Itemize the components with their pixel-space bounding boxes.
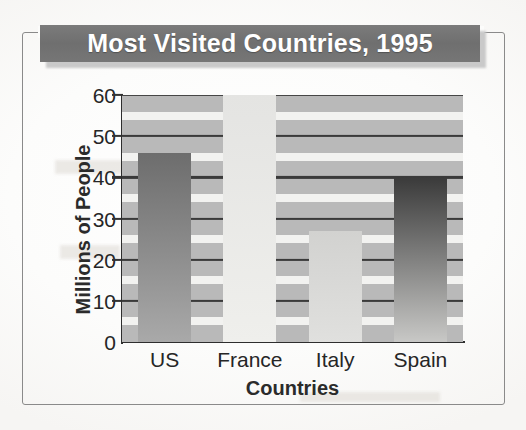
grid-band [122,112,463,120]
y-tick-label: 10 [70,290,116,311]
bar-france [223,95,276,342]
page-title: Most Visited Countries, 1995 [87,29,433,58]
y-axis-tick-labels: 0102030405060 [62,0,116,430]
plot-area [122,95,463,342]
bar-us [138,153,191,342]
bar-italy [309,231,362,342]
gridline [122,95,463,96]
y-tick-label: 20 [70,249,116,270]
x-tick-label: Spain [394,348,448,372]
y-tick-label: 60 [70,85,116,106]
y-tick-label: 30 [70,208,116,229]
y-tick-label: 50 [70,126,116,147]
y-tick-label: 0 [70,332,116,353]
x-tick-label: Italy [316,348,355,372]
x-tick-label: US [150,348,179,372]
y-tick-label: 40 [70,167,116,188]
x-axis-label: Countries [122,377,463,400]
figure-page: Most Visited Countries, 1995 Millions of… [0,0,526,430]
gridline [122,135,463,137]
x-tick-label: France [217,348,282,372]
bar-spain [394,177,447,342]
